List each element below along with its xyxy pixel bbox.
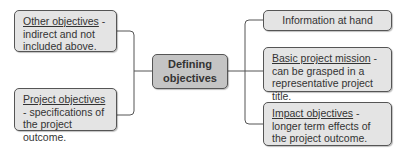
node-defining-objectives: Defining objectives [152,54,228,89]
node-other-objectives: Other objectives - indirect and not incl… [14,10,117,52]
node-term: Basic project mission [272,52,371,64]
node-desc: Information at hand [282,14,372,26]
node-term: Impact objectives [272,107,353,119]
node-basic-project-mission: Basic project mission - can be grasped i… [263,47,392,92]
node-term: Project objectives [23,93,105,105]
node-project-objectives: Project objectives - specifications of t… [14,88,117,131]
node-information-at-hand: Information at hand [263,10,392,31]
node-term: Other objectives [23,15,99,27]
node-impact-objectives: Impact objectives - longer term effects … [263,102,392,146]
center-label-line1: Defining [157,58,223,72]
center-label-line2: objectives [157,72,223,86]
